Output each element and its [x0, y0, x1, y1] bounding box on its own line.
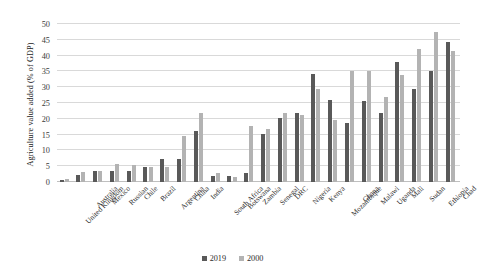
- y-tick-label: 25: [42, 99, 50, 108]
- bar-2019: [362, 101, 366, 182]
- bar-series-container: [57, 24, 460, 182]
- chart-legend: 20192000: [0, 254, 465, 263]
- bar-group: [309, 24, 326, 182]
- x-tick-label: Sudan: [427, 184, 446, 203]
- bar-group: [141, 24, 158, 182]
- x-tick-label: India: [208, 184, 225, 201]
- bar-2019: [328, 100, 332, 182]
- bar-group: [259, 24, 276, 182]
- plot-area: [57, 24, 460, 182]
- bar-2000: [451, 51, 455, 182]
- bar-group: [410, 24, 427, 182]
- y-tick-label: 45: [42, 35, 50, 44]
- bar-group: [175, 24, 192, 182]
- bar-group: [342, 24, 359, 182]
- legend-label: 2000: [247, 254, 263, 263]
- bar-2019: [412, 89, 416, 182]
- bar-group: [443, 24, 460, 182]
- x-tick-label: Brazil: [159, 184, 178, 203]
- bar-2019: [127, 171, 131, 182]
- bar-2019: [160, 159, 164, 182]
- y-tick-label: 30: [42, 83, 50, 92]
- bar-2019: [211, 176, 215, 182]
- bar-2019: [379, 113, 383, 182]
- bar-2000: [400, 75, 404, 182]
- bar-2000: [367, 71, 371, 182]
- bar-2019: [295, 113, 299, 182]
- y-tick-label: 40: [42, 51, 50, 60]
- bar-2000: [65, 179, 69, 182]
- y-axis-tick-labels: 05101520253035404550: [0, 24, 57, 182]
- legend-label: 2019: [210, 254, 226, 263]
- bar-2000: [417, 49, 421, 182]
- bar-2000: [350, 71, 354, 182]
- legend-swatch-icon: [202, 256, 207, 261]
- bar-2019: [110, 171, 114, 182]
- bar-2000: [216, 173, 220, 182]
- bar-2000: [266, 129, 270, 182]
- legend-item[interactable]: 2019: [202, 254, 226, 263]
- bar-2019: [345, 123, 349, 182]
- bar-2000: [98, 171, 102, 182]
- bar-2019: [143, 167, 147, 182]
- bar-group: [359, 24, 376, 182]
- bar-2019: [446, 42, 450, 182]
- bar-group: [225, 24, 242, 182]
- bar-group: [191, 24, 208, 182]
- bar-2019: [244, 173, 248, 182]
- bar-group: [326, 24, 343, 182]
- bar-2019: [177, 159, 181, 182]
- legend-item[interactable]: 2000: [239, 254, 263, 263]
- bar-group: [107, 24, 124, 182]
- bar-group: [393, 24, 410, 182]
- bar-2000: [434, 32, 438, 182]
- bar-2000: [199, 113, 203, 182]
- bar-group: [208, 24, 225, 182]
- bar-group: [242, 24, 259, 182]
- bar-2019: [261, 134, 265, 182]
- bar-2000: [283, 113, 287, 182]
- y-tick-label: 20: [42, 114, 50, 123]
- bar-2000: [115, 164, 119, 182]
- bar-2000: [132, 165, 136, 182]
- bar-group: [376, 24, 393, 182]
- bar-2000: [333, 120, 337, 182]
- bar-2000: [81, 172, 85, 182]
- bar-2000: [249, 126, 253, 182]
- y-tick-label: 5: [46, 162, 50, 171]
- y-tick-label: 10: [42, 146, 50, 155]
- bar-2000: [300, 115, 304, 182]
- y-tick-label: 15: [42, 130, 50, 139]
- bar-group: [158, 24, 175, 182]
- y-tick-label: 35: [42, 67, 50, 76]
- bar-group: [57, 24, 74, 182]
- bar-2019: [278, 118, 282, 182]
- bar-group: [91, 24, 108, 182]
- bar-2000: [384, 97, 388, 182]
- bar-2000: [165, 167, 169, 182]
- bar-group: [124, 24, 141, 182]
- bar-2000: [233, 177, 237, 182]
- bar-group: [426, 24, 443, 182]
- bar-2019: [227, 176, 231, 182]
- y-tick-label: 50: [42, 20, 50, 29]
- bar-2019: [311, 74, 315, 182]
- bar-group: [292, 24, 309, 182]
- bar-2000: [182, 136, 186, 182]
- bar-2000: [149, 167, 153, 182]
- bar-group: [275, 24, 292, 182]
- bar-2019: [194, 131, 198, 182]
- legend-swatch-icon: [239, 256, 244, 261]
- bar-2019: [76, 175, 80, 182]
- bar-group: [74, 24, 91, 182]
- bar-2000: [316, 89, 320, 182]
- bar-2019: [395, 62, 399, 182]
- x-axis-tick-labels: United KingdomAustraliaMexicoRussianChil…: [57, 184, 460, 246]
- bar-2019: [429, 71, 433, 182]
- bar-2019: [60, 180, 64, 182]
- bar-2019: [93, 171, 97, 182]
- y-tick-label: 0: [46, 178, 50, 187]
